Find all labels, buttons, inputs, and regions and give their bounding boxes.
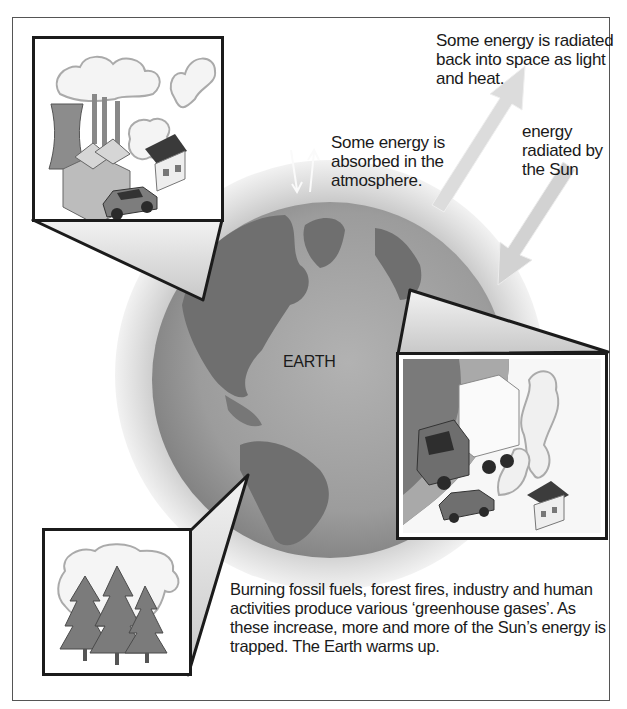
- callout-industry-cone: [33, 220, 222, 300]
- label-energy-radiated-by-sun: energy radiated by the Sun: [522, 122, 612, 179]
- label-radiated-back: Some energy is radiated back into space …: [436, 31, 616, 88]
- inset-transport: [396, 352, 608, 540]
- label-earth: EARTH: [283, 352, 335, 371]
- forest-fire-illustration: [45, 531, 189, 673]
- caption-greenhouse-gases: Burning fossil fuels, forest fires, indu…: [230, 580, 610, 656]
- arrow-sun-incoming-icon: [498, 162, 575, 285]
- transport-illustration: [399, 355, 605, 537]
- label-absorbed-atmosphere: Some energy is absorbed in the atmospher…: [331, 133, 501, 190]
- inset-industry: [32, 36, 224, 222]
- inset-forest-fire: [42, 528, 192, 676]
- industry-illustration: [35, 39, 221, 219]
